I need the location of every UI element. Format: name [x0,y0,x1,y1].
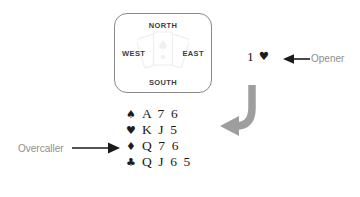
hand-row: ♠ A 7 6 [126,106,192,122]
compass-label-north: NORTH [115,21,211,30]
hand-cards-diamonds: Q 7 6 [140,139,180,153]
hand-cards-hearts: K J 5 [140,123,179,137]
hand-row: ♦ Q 7 6 [126,138,192,154]
bid-to-hand-curved-arrow-icon [220,85,252,136]
opening-bid: 1 ♥ [247,50,269,64]
compass-label-east: EAST [182,49,204,58]
bid-level: 1 [247,50,254,64]
compass-label-south: SOUTH [115,78,211,87]
bridge-diagram: NORTH WEST EAST SOUTH 1 ♥ Opener Overcal… [0,0,360,197]
opener-label: Opener [311,54,344,64]
hand-cards-spades: A 7 6 [140,107,179,121]
hand-row: ♥ K J 5 [126,122,192,138]
overcaller-arrow-icon [72,143,120,154]
overcaller-label: Overcaller [18,144,64,154]
overcaller-hand: ♠ A 7 6 ♥ K J 5 ♦ Q 7 6 ♣ Q J 6 5 [126,106,192,170]
opener-arrow-icon [283,54,310,64]
club-suit-icon: ♣ [126,157,140,168]
compass-label-west: WEST [122,49,145,58]
heart-suit-icon: ♥ [254,51,269,63]
hand-row: ♣ Q J 6 5 [126,154,192,170]
diamond-suit-icon: ♦ [126,141,140,152]
spade-suit-icon: ♠ [126,109,140,120]
hand-cards-clubs: Q J 6 5 [140,155,192,169]
compass-box: NORTH WEST EAST SOUTH [114,13,212,93]
heart-suit-icon: ♥ [126,125,140,136]
